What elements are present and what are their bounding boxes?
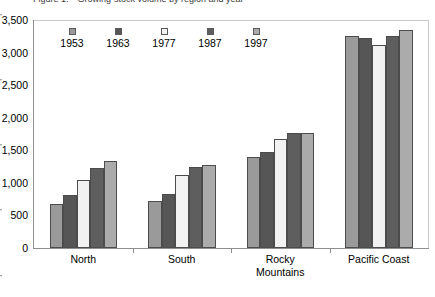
y-axis-tick-label: 1,000 xyxy=(2,178,28,189)
bar xyxy=(77,180,91,248)
legend-item: 1977 xyxy=(141,28,187,49)
bar xyxy=(162,194,176,248)
y-axis-tick-label: 2,000 xyxy=(2,112,28,123)
bar xyxy=(274,139,288,248)
bar xyxy=(90,168,104,248)
bar xyxy=(104,161,118,248)
legend-item: 1987 xyxy=(187,28,233,49)
x-axis-category-label: South xyxy=(133,253,232,266)
legend-item: 1997 xyxy=(233,28,279,49)
bar xyxy=(50,204,64,248)
y-axis-tick-label: 3,000 xyxy=(2,47,28,58)
plot-frame-right-border xyxy=(428,20,429,249)
bar-group xyxy=(34,20,133,248)
chart-canvas: Figure 1.—Growing-stock volume by region… xyxy=(0,0,435,297)
y-axis-tick-label: 500 xyxy=(10,210,28,221)
legend-swatch-icon xyxy=(69,28,76,35)
x-axis-category-label: Rocky Mountains xyxy=(231,253,330,279)
bar xyxy=(247,157,261,248)
bar xyxy=(175,175,189,248)
x-axis-category-labels: NorthSouthRocky MountainsPacific Coast xyxy=(33,253,429,295)
y-axis-tick-mark xyxy=(0,14,2,15)
bar xyxy=(301,133,315,248)
clipped-top-caption: Figure 1.—Growing-stock volume by region… xyxy=(33,0,428,4)
chart-legend: 19531963197719871997 xyxy=(49,28,279,49)
y-axis-tick-label: 1,500 xyxy=(2,145,28,156)
legend-item: 1963 xyxy=(95,28,141,49)
bar xyxy=(386,36,400,248)
x-axis-category-label: Pacific Coast xyxy=(330,253,429,266)
bar-series-layer xyxy=(34,20,428,248)
y-axis-tick-mark xyxy=(0,275,2,276)
legend-label: 1977 xyxy=(152,38,175,49)
bar-group xyxy=(133,20,232,248)
bar xyxy=(399,30,413,248)
legend-label: 1997 xyxy=(244,38,267,49)
bar xyxy=(202,165,216,248)
legend-item: 1953 xyxy=(49,28,95,49)
bar xyxy=(359,38,373,248)
bar xyxy=(287,133,301,248)
plot-area: 05001,0001,5002,0002,5003,0003,500 xyxy=(33,20,429,249)
legend-swatch-icon xyxy=(207,28,214,35)
bar-group xyxy=(231,20,330,248)
legend-swatch-icon xyxy=(253,28,260,35)
bar xyxy=(148,201,162,248)
bar xyxy=(189,167,203,248)
legend-label: 1987 xyxy=(198,38,221,49)
y-axis-tick-label: 2,500 xyxy=(2,80,28,91)
y-axis-tick-mark xyxy=(0,210,2,211)
x-axis-category-label: North xyxy=(34,253,133,266)
legend-label: 1963 xyxy=(106,38,129,49)
y-axis-tick-mark xyxy=(0,145,2,146)
bar-group xyxy=(330,20,429,248)
legend-swatch-icon xyxy=(161,28,168,35)
y-axis-tick-label: 3,500 xyxy=(2,15,28,26)
y-axis-tick-label: 0 xyxy=(22,243,28,254)
bar xyxy=(372,45,386,248)
bar xyxy=(63,195,77,248)
y-axis-tick-mark xyxy=(0,79,2,80)
bar xyxy=(345,36,359,248)
bar xyxy=(260,152,274,248)
legend-label: 1953 xyxy=(60,38,83,49)
legend-swatch-icon xyxy=(115,28,122,35)
